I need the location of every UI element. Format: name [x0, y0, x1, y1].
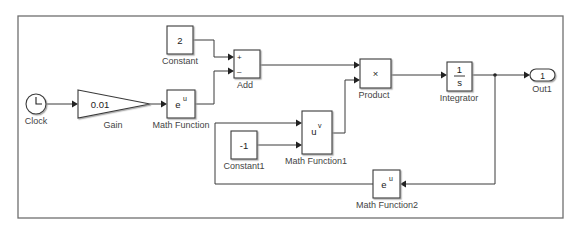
integrator-label: Integrator — [440, 93, 479, 103]
math-function1-exponent: v — [318, 122, 322, 129]
math-function2-exponent: u — [389, 175, 393, 182]
add-plus-sign: + — [237, 53, 242, 62]
product-symbol: × — [373, 68, 379, 79]
constant-block[interactable]: 2 Constant — [162, 26, 199, 66]
math-function1-label: Math Function1 — [285, 156, 347, 166]
constant1-value: -1 — [240, 140, 248, 151]
math-function2-base: e — [381, 179, 386, 190]
simulink-canvas: Clock 0.01 Gain e u Math Function 2 Cons… — [0, 0, 575, 234]
gain-label: Gain — [103, 120, 122, 130]
math-function-box — [167, 90, 195, 118]
integrator-numerator: 1 — [457, 64, 462, 75]
add-label: Add — [237, 80, 253, 90]
constant1-label: Constant1 — [223, 161, 264, 171]
math-function-base: e — [175, 99, 180, 110]
out1-port-number: 1 — [540, 71, 545, 81]
constant-value: 2 — [177, 35, 182, 46]
constant-label: Constant — [162, 56, 199, 66]
math-function1-base: u — [311, 126, 316, 137]
product-block[interactable]: × Product — [358, 59, 391, 100]
math-function-label: Math Function — [152, 120, 209, 130]
math-function2-label: Math Function2 — [356, 200, 418, 210]
out1-label: Out1 — [532, 84, 552, 94]
add-minus-sign: – — [237, 67, 242, 76]
gain-value: 0.01 — [91, 99, 110, 110]
product-label: Product — [358, 90, 390, 100]
diagram-frame — [18, 16, 563, 218]
clock-block[interactable]: Clock — [25, 94, 48, 126]
math-function1-box — [302, 111, 332, 154]
math-function-exponent: u — [183, 95, 187, 102]
clock-label: Clock — [25, 116, 48, 126]
integrator-denominator: s — [457, 77, 462, 88]
